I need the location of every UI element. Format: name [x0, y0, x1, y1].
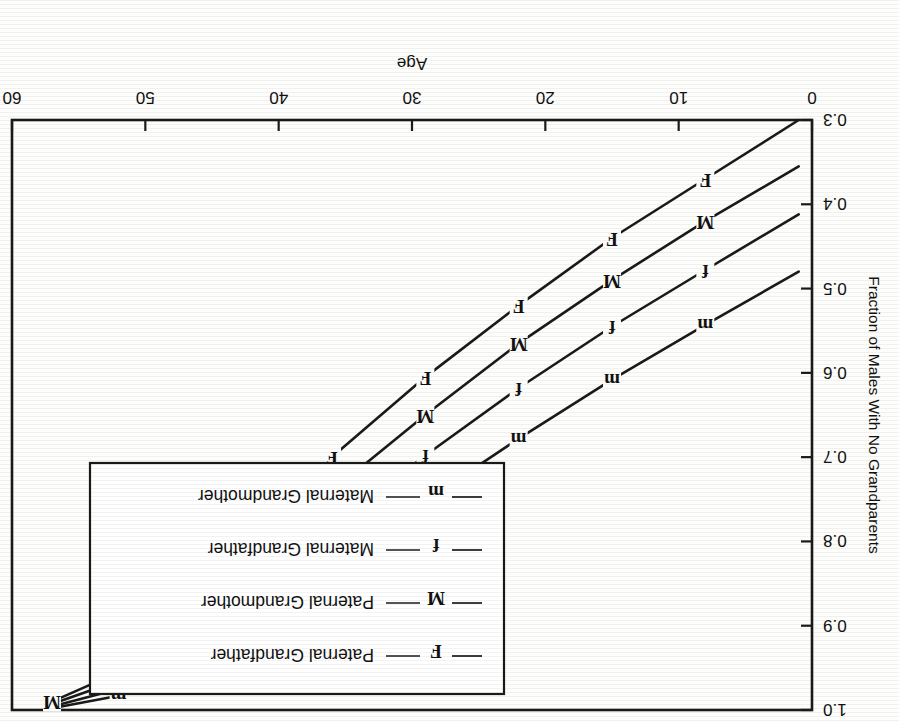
point-marker-f: f — [608, 317, 615, 338]
y-tick-label: 0.7 — [823, 447, 847, 466]
legend: FPaternal GrandfatherMPaternal Grandmoth… — [90, 463, 504, 694]
point-marker-m: m — [604, 370, 620, 391]
legend-label: Maternal Grandfather — [207, 539, 374, 559]
y-tick-label: 0.6 — [823, 363, 847, 382]
y-tick-label: 0.9 — [823, 616, 847, 635]
y-tick-label: 0.4 — [823, 194, 847, 213]
y-tick-label: 0.8 — [823, 531, 847, 550]
legend-marker-F: F — [430, 641, 442, 662]
y-axis-ticks: 0.30.40.50.60.70.80.91.0 — [801, 110, 847, 719]
x-axis-ticks: 0102030405060 — [3, 88, 817, 131]
x-tick-label: 20 — [536, 88, 555, 107]
x-tick-label: 60 — [3, 88, 22, 107]
x-axis-title: Age — [397, 54, 427, 73]
x-tick-label: 0 — [807, 88, 816, 107]
legend-marker-M: M — [427, 588, 445, 609]
x-tick-label: 50 — [136, 88, 155, 107]
y-axis-title: Fraction of Males With No Grandparents — [866, 276, 883, 554]
x-tick-label: 40 — [269, 88, 288, 107]
point-marker-M: M — [43, 692, 61, 713]
y-tick-label: 0.3 — [823, 110, 847, 129]
point-marker-f: f — [701, 261, 708, 282]
y-tick-label: 1.0 — [823, 700, 847, 719]
legend-label: Paternal Grandmother — [201, 592, 374, 612]
point-marker-m: m — [697, 315, 713, 336]
line-chart: 0102030405060 0.30.40.50.60.70.80.91.0 F… — [0, 0, 899, 722]
point-marker-F: F — [420, 368, 432, 389]
point-marker-M: M — [510, 334, 528, 355]
x-tick-label: 30 — [403, 88, 422, 107]
x-tick-label: 10 — [669, 88, 688, 107]
point-marker-F: F — [700, 170, 712, 191]
point-marker-f: f — [515, 379, 522, 400]
point-marker-m: m — [511, 429, 527, 450]
point-marker-M: M — [696, 212, 714, 233]
scanned-figure-page: 0102030405060 0.30.40.50.60.70.80.91.0 F… — [0, 0, 899, 722]
chart-area: 0102030405060 0.30.40.50.60.70.80.91.0 F… — [0, 0, 899, 722]
legend-marker-m: m — [428, 482, 444, 503]
legend-marker-f: f — [432, 535, 439, 556]
point-marker-F: F — [513, 296, 525, 317]
point-marker-M: M — [416, 406, 434, 427]
point-marker-F: F — [606, 229, 618, 250]
legend-label: Paternal Grandfather — [210, 645, 374, 665]
y-tick-label: 0.5 — [823, 279, 847, 298]
point-marker-M: M — [603, 271, 621, 292]
legend-label: Maternal Grandmother — [198, 486, 374, 506]
